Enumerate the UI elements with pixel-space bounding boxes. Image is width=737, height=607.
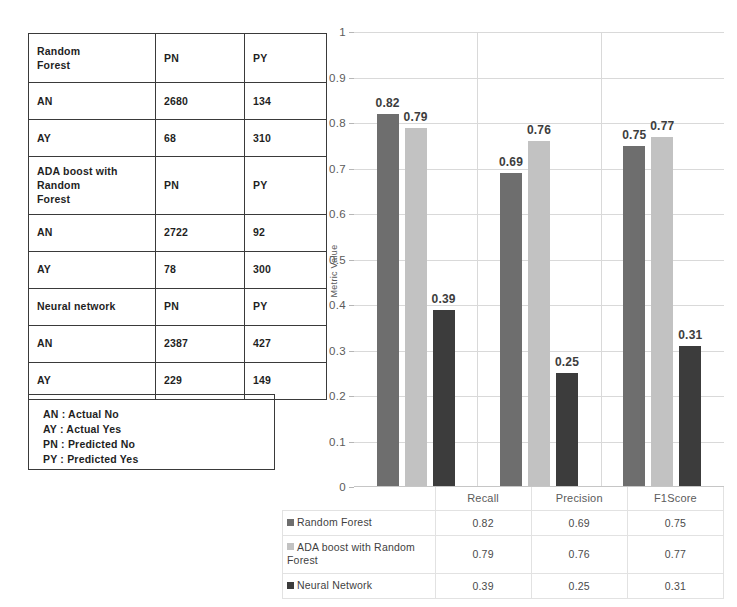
chart-data-cell: 0.77 [627, 535, 723, 573]
y-axis-tick-mark [349, 78, 354, 79]
bar-value-label: 0.39 [432, 292, 456, 306]
abbreviation-legend-line: AY : Actual Yes [43, 422, 274, 437]
chart-data-cell: 0.76 [531, 535, 627, 573]
confusion-matrix-cell: 68 [156, 120, 245, 157]
y-axis-tick-mark [349, 32, 354, 33]
chart-data-cell: 0.25 [531, 573, 627, 598]
gridline [354, 78, 724, 79]
gridline [354, 32, 724, 33]
chart-data-cell: 0.69 [531, 511, 627, 536]
bar [405, 128, 427, 487]
y-axis-tick-mark [349, 442, 354, 443]
legend-series-entry: Random Forest [283, 511, 436, 536]
y-axis-tick-label: 0.6 [306, 208, 346, 220]
y-axis-tick-label: 0.2 [306, 390, 346, 402]
legend-swatch-icon [287, 582, 294, 589]
bar [500, 173, 522, 487]
legend-swatch-icon [287, 519, 294, 526]
confusion-matrix-cell: 78 [156, 251, 245, 288]
confusion-matrix-cell: AY [29, 251, 156, 288]
category-separator [601, 32, 602, 487]
legend-series-entry: Neural Network [283, 573, 436, 598]
y-axis-tick-label: 0.1 [306, 436, 346, 448]
legend-series-label: Neural Network [297, 579, 372, 591]
y-axis-tick-mark [349, 396, 354, 397]
y-axis-tick-mark [349, 305, 354, 306]
y-axis-tick-label: 0.7 [306, 163, 346, 175]
chart-data-cell: 0.82 [435, 511, 531, 536]
y-axis-tick-label: 0.9 [306, 72, 346, 84]
bar [623, 146, 645, 487]
confusion-matrix-cell: PN [156, 157, 245, 215]
bar-value-label: 0.79 [404, 110, 428, 124]
confusion-matrix-cell: PN [156, 288, 245, 325]
confusion-matrix-cell: ADA boost withRandomForest [29, 157, 156, 215]
confusion-matrix-cell: AN [29, 325, 156, 362]
chart-data-cell: 0.39 [435, 573, 531, 598]
legend-series-entry: ADA boost with Random Forest [283, 535, 436, 573]
chart-data-cell: 0.31 [627, 573, 723, 598]
bar [556, 373, 578, 487]
abbreviation-legend-line: PY : Predicted Yes [43, 452, 274, 467]
bar-value-label: 0.76 [527, 123, 551, 137]
confusion-matrix-cell: AN [29, 83, 156, 120]
chart-data-table-corner [283, 487, 436, 511]
confusion-matrix-cell: 2722 [156, 214, 245, 251]
x-axis-category-label: F1Score [627, 487, 723, 511]
bar-value-label: 0.77 [650, 119, 674, 133]
chart-data-table-row: Neural Network0.390.250.31 [283, 573, 724, 598]
bar [679, 346, 701, 487]
y-axis-tick-label: 0.5 [306, 254, 346, 266]
bar-value-label: 0.31 [678, 328, 702, 342]
chart-data-table-row: ADA boost with Random Forest0.790.760.77 [283, 535, 724, 573]
bar-chart: Metric Value 00.10.20.30.40.50.60.70.80.… [282, 18, 734, 598]
category-separator [477, 32, 478, 487]
chart-data-table: RecallPrecisionF1ScoreRandom Forest0.820… [282, 487, 724, 599]
chart-data-table-body: RecallPrecisionF1ScoreRandom Forest0.820… [283, 487, 724, 598]
y-axis-tick-mark [349, 351, 354, 352]
bar [433, 310, 455, 487]
bar [377, 114, 399, 487]
y-axis-tick-label: 0.3 [306, 345, 346, 357]
bar-value-label: 0.75 [622, 128, 646, 142]
plot-area: 00.10.20.30.40.50.60.70.80.91 0.820.790.… [354, 32, 724, 487]
bar-value-label: 0.25 [555, 355, 579, 369]
chart-data-table-header-row: RecallPrecisionF1Score [283, 487, 724, 511]
confusion-matrix-cell: AN [29, 214, 156, 251]
y-axis-tick-label: 0.4 [306, 299, 346, 311]
bar [528, 141, 550, 487]
confusion-matrix-cell: RandomForest [29, 34, 156, 83]
legend-series-label: ADA boost with Random Forest [287, 541, 415, 567]
legend-series-label: Random Forest [297, 516, 372, 528]
legend-swatch-icon [287, 543, 294, 550]
y-axis-tick-mark [349, 260, 354, 261]
chart-data-cell: 0.75 [627, 511, 723, 536]
abbreviation-legend-line: PN : Predicted No [43, 437, 274, 452]
chart-data-table-row: Random Forest0.820.690.75 [283, 511, 724, 536]
x-axis-category-label: Recall [435, 487, 531, 511]
y-axis-tick-mark [349, 214, 354, 215]
confusion-matrix-cell: AY [29, 120, 156, 157]
confusion-matrix-cell: Neural network [29, 288, 156, 325]
confusion-matrix-cell: 2680 [156, 83, 245, 120]
y-axis-tick-mark [349, 169, 354, 170]
abbreviation-legend-line: AN : Actual No [43, 407, 274, 422]
chart-data-cell: 0.79 [435, 535, 531, 573]
bar-value-label: 0.82 [376, 96, 400, 110]
bar [651, 137, 673, 487]
abbreviation-legend-box: AN : Actual NoAY : Actual YesPN : Predic… [28, 394, 275, 470]
x-axis-category-label: Precision [531, 487, 627, 511]
confusion-matrix-cell: 2387 [156, 325, 245, 362]
y-axis-title: Metric Value [329, 211, 339, 331]
bar-value-label: 0.69 [499, 155, 523, 169]
confusion-matrix-cell: PN [156, 34, 245, 83]
y-axis-tick-mark [349, 123, 354, 124]
y-axis-tick-label: 0.8 [306, 117, 346, 129]
y-axis-tick-label: 1 [306, 26, 346, 38]
